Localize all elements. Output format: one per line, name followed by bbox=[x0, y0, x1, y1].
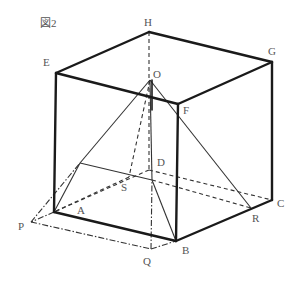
edge-EA bbox=[54, 73, 56, 212]
figure-title: 図2 bbox=[40, 17, 57, 29]
label-G: G bbox=[268, 45, 276, 57]
line-to-R bbox=[152, 180, 251, 208]
line-S-A bbox=[54, 177, 129, 212]
pyramid-base-top bbox=[80, 163, 152, 180]
label-H: H bbox=[144, 16, 152, 28]
pyramid-base-right bbox=[152, 180, 176, 241]
label-D: D bbox=[157, 156, 165, 168]
line-A-P bbox=[31, 212, 54, 222]
cube-pyramid-diagram: 図2 E H bbox=[0, 0, 303, 284]
label-Q: Q bbox=[143, 255, 151, 267]
edge-GF bbox=[178, 62, 272, 104]
edge-DC bbox=[149, 170, 272, 200]
pyramid-edge-left bbox=[80, 80, 150, 163]
line-Q-B bbox=[151, 241, 176, 249]
label-R: R bbox=[252, 212, 260, 224]
label-O: O bbox=[153, 68, 161, 80]
label-P: P bbox=[18, 220, 24, 232]
edge-EH bbox=[56, 32, 149, 73]
label-E: E bbox=[43, 56, 50, 68]
label-A: A bbox=[77, 204, 85, 216]
edge-FB bbox=[176, 104, 178, 241]
label-F: F bbox=[183, 104, 189, 116]
line-P-Q bbox=[31, 222, 151, 249]
edge-HG bbox=[149, 32, 272, 62]
visible-edges bbox=[54, 32, 272, 241]
label-S: S bbox=[121, 181, 127, 193]
edge-AB bbox=[54, 212, 176, 241]
label-C: C bbox=[277, 197, 284, 209]
line-Q-base bbox=[151, 180, 152, 249]
label-B: B bbox=[182, 244, 189, 256]
pyramid-edge-OR bbox=[150, 80, 251, 208]
